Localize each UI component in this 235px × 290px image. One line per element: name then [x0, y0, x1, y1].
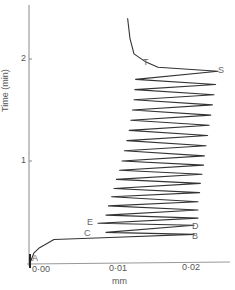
point-label-t: T	[143, 58, 149, 67]
y-axis	[29, 5, 32, 266]
point-label-c: C	[84, 229, 91, 238]
y-axis-label: Time (min)	[0, 69, 10, 112]
point-label-s: S	[218, 66, 224, 75]
point-label-d: D	[192, 222, 199, 231]
point-label-a: A	[32, 254, 38, 263]
trace-line	[30, 18, 218, 263]
x-axis-label: mm	[112, 277, 127, 286]
y-tick-label-2: 2	[21, 54, 26, 63]
x-tick-label-2: 0·02	[182, 263, 200, 272]
x-tick-label-0: 0·00	[32, 265, 50, 274]
x-tick-label-1: 0·01	[109, 264, 127, 273]
point-label-b: B	[192, 232, 198, 241]
y-tick-label-1: 1	[21, 156, 26, 165]
point-label-e: E	[87, 218, 93, 227]
chart-plot	[0, 0, 235, 290]
